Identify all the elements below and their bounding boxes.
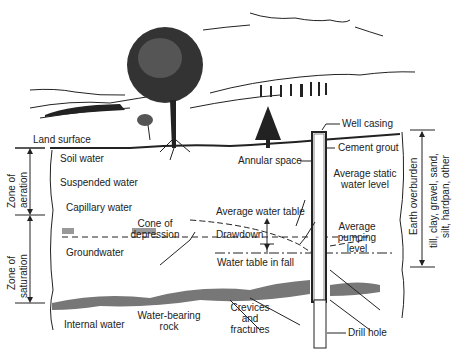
tree-icon (127, 27, 203, 160)
water-bearing-line-2: rock (133, 321, 205, 332)
avg-pumping-line-1: Average (332, 221, 382, 232)
avg-pumping-level-label: Average pumping level (332, 221, 382, 254)
water-table-in-fall-label: Water table in fall (217, 257, 294, 268)
avg-static-line-1: Average static (330, 168, 400, 179)
crevices-line-2: and (220, 313, 280, 324)
cone-line-2: depression (120, 229, 190, 240)
drawdown-label: Drawdown (216, 229, 263, 240)
cone-of-depression-label: Cone of depression (120, 218, 190, 240)
avg-static-water-label: Average static water level (330, 168, 400, 190)
drill-hole-label: Drill hole (348, 327, 387, 338)
avg-water-table-label: Average water table (216, 206, 305, 217)
land-surface-label: Land surface (33, 134, 91, 145)
zone-aeration-label-1: Zone of (6, 174, 17, 208)
cone-line-1: Cone of (120, 218, 190, 229)
avg-pumping-line-2: pumping (332, 232, 382, 243)
suspended-water-label: Suspended water (60, 177, 138, 188)
earth-overburden-label: Earth overburden (408, 158, 419, 235)
crevices-line-3: fractures (220, 324, 280, 335)
zone-saturation-label-1: Zone of (6, 256, 17, 290)
well-casing-label: Well casing (342, 118, 393, 129)
internal-water-label: Internal water (64, 319, 125, 330)
avg-static-line-2: water level (330, 179, 400, 190)
zone-aeration-label-2: aeration (18, 172, 29, 208)
overburden-types-label-2: silt, hardpan, other (440, 155, 451, 238)
overburden-types-label-1: till, clay, gravel, sand, (428, 153, 439, 248)
avg-pumping-line-3: level (332, 243, 382, 254)
groundwater-label: Groundwater (66, 247, 124, 258)
crevices-line-1: Crevices (220, 302, 280, 313)
cement-grout-label: Cement grout (338, 142, 399, 153)
crevices-label: Crevices and fractures (220, 302, 280, 335)
soil-water-label: Soil water (60, 153, 104, 164)
water-bearing-rock-label: Water-bearing rock (133, 310, 205, 332)
capillary-water-label: Capillary water (66, 202, 132, 213)
zone-saturation-label-2: saturation (18, 254, 29, 298)
water-bearing-line-1: Water-bearing (133, 310, 205, 321)
annular-space-label: Annular space (238, 155, 302, 166)
groundwater-diagram: Land surface Soil water Suspended water … (0, 0, 463, 352)
